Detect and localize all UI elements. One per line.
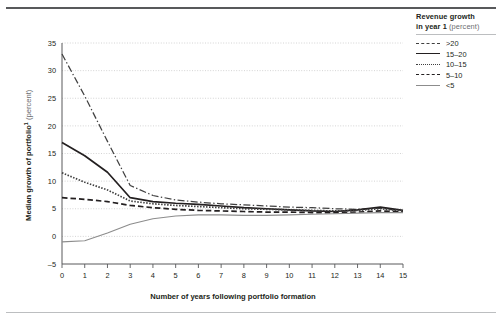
y-axis-title-text: Median growth of portfolio <box>24 125 33 221</box>
x-tick-label: 7 <box>219 271 223 280</box>
x-tick-label: 10 <box>285 271 293 280</box>
y-tick-label: 10 <box>48 177 56 186</box>
x-tick-label: 12 <box>331 271 339 280</box>
x-axis-title: Number of years following portfolio form… <box>62 292 404 301</box>
x-tick-label: 14 <box>376 271 384 280</box>
y-tick-label: 15 <box>48 149 56 158</box>
x-tick-label: 1 <box>83 271 87 280</box>
plot-area: 35302520151050–50123456789101112131415 M… <box>0 0 502 323</box>
x-tick-label: 15 <box>399 271 407 280</box>
series-line-20 <box>62 54 403 211</box>
chart-svg: 35302520151050–50123456789101112131415 <box>0 0 502 323</box>
y-tick-label: 35 <box>48 39 56 48</box>
y-axis-title-footnote: 1 <box>23 122 29 125</box>
x-tick-label: 11 <box>308 271 316 280</box>
y-axis-unit: (percent) <box>24 90 33 120</box>
y-tick-label: 20 <box>48 122 56 131</box>
y-tick-label: –5 <box>48 260 56 269</box>
x-tick-label: 3 <box>128 271 132 280</box>
chart-page: Revenue growth in year 1 (percent) >20 1… <box>0 0 502 323</box>
x-tick-label: 9 <box>265 271 269 280</box>
series-line-5 <box>62 213 403 242</box>
x-tick-label: 8 <box>242 271 246 280</box>
y-tick-label: 5 <box>52 204 56 213</box>
x-tick-label: 0 <box>60 271 64 280</box>
x-tick-label: 6 <box>196 271 200 280</box>
y-tick-label: 25 <box>48 94 56 103</box>
y-tick-label: 0 <box>52 232 56 241</box>
y-tick-label: 30 <box>48 66 56 75</box>
x-tick-label: 2 <box>105 271 109 280</box>
y-axis-title: Median growth of portfolio1 (percent) <box>23 65 34 245</box>
x-tick-label: 5 <box>174 271 178 280</box>
x-tick-label: 13 <box>353 271 361 280</box>
x-tick-label: 4 <box>151 271 155 280</box>
